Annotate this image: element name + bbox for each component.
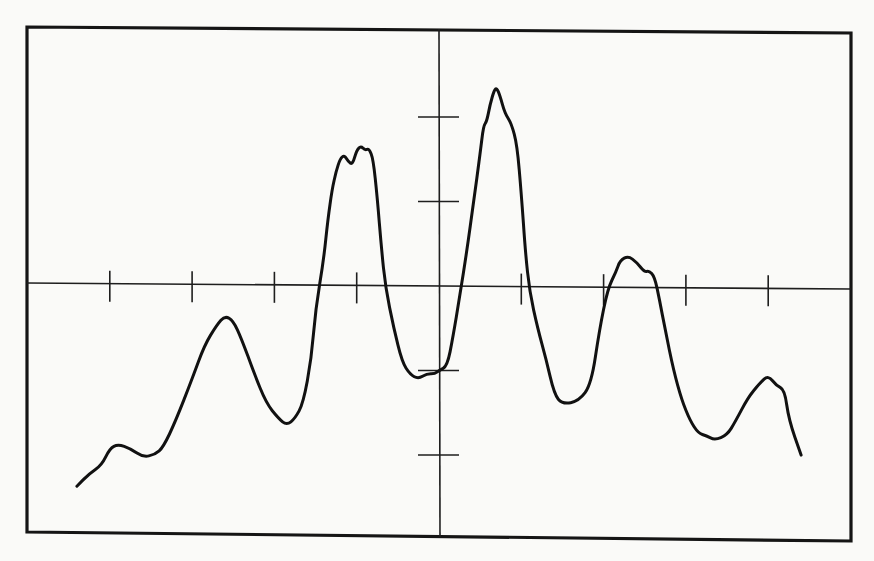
waveform-plot [0, 0, 874, 561]
y-axis-line [439, 29, 440, 537]
waveform-figure [0, 0, 874, 561]
paper-background [0, 0, 874, 561]
